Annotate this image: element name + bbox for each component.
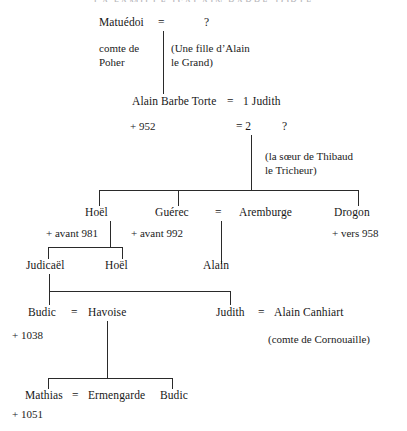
person-budic-1: Budic — [28, 306, 56, 319]
person-matuedoi: Matuédoi — [99, 16, 144, 29]
person-ermengarde: Ermengarde — [88, 389, 145, 402]
note-fille-alain-line2: le Grand) — [171, 56, 213, 69]
note-fille-alain-line1: (Une fille d’Alain — [171, 42, 250, 55]
note-vers-958: + vers 958 — [332, 227, 379, 240]
genealogy-diagram: LA FAMILLE D'ALAIN BARBE TORTE Matuédoi … — [0, 0, 407, 431]
note-death-1038: + 1038 — [12, 329, 43, 342]
union-guerec-equals: = — [215, 206, 222, 218]
sibling-bar-gen3 — [99, 190, 359, 191]
person-spouse2-unknown: ? — [282, 120, 287, 133]
note-death-952: + 952 — [130, 120, 155, 133]
sibling-bar-gen5 — [49, 291, 231, 292]
person-spouse1-unknown: ? — [204, 16, 209, 29]
person-guerec: Guérec — [155, 206, 189, 219]
note-comte-cornouaille: (comte de Cornouaille) — [268, 333, 370, 346]
connector-to-hoel-2 — [122, 247, 123, 259]
note-soeur-thibaud-line1: (la sœur de Thibaud — [265, 150, 353, 163]
connector-judicael-to-children — [49, 274, 50, 292]
note-poher: Poher — [99, 56, 125, 69]
note-soeur-thibaud-line2: le Tricheur) — [265, 164, 317, 177]
person-alain-barbe-torte: Alain Barbe Torte — [132, 95, 216, 108]
diagram-title: LA FAMILLE D'ALAIN BARBE TORTE — [0, 0, 407, 2]
connector-budic-to-children — [107, 321, 108, 379]
sibling-bar-gen4 — [48, 247, 123, 248]
person-hoel-2: Hoël — [105, 259, 128, 272]
person-judicael: Judicaël — [26, 259, 64, 272]
sibling-bar-gen6 — [48, 378, 173, 379]
connector-to-judicael — [48, 247, 49, 259]
connector-gen2-to-gen3 — [251, 135, 252, 191]
union-abt-equals-2: = 2 — [236, 120, 251, 132]
connector-to-budic-2 — [172, 378, 173, 389]
note-avant-981: + avant 981 — [46, 227, 98, 240]
connector-to-judith-2 — [230, 291, 231, 305]
person-havoise: Havoise — [88, 306, 126, 319]
connector-guerec-to-alain — [221, 221, 222, 264]
person-budic-2: Budic — [160, 389, 188, 402]
person-alain-canhiart: Alain Canhiart — [274, 306, 343, 319]
union-mathias-equals: = — [72, 389, 79, 401]
connector-to-guerec — [178, 190, 179, 206]
connector-to-drogon — [358, 190, 359, 206]
person-drogon: Drogon — [334, 206, 370, 219]
connector-gen1-to-gen2 — [163, 31, 164, 94]
connector-to-hoel-1 — [99, 190, 100, 206]
person-alain: Alain — [203, 259, 229, 272]
person-hoel-1: Hoël — [85, 206, 108, 219]
note-death-1051: + 1051 — [12, 408, 43, 421]
person-mathias: Mathias — [25, 389, 63, 402]
person-judith-2: Judith — [216, 306, 245, 319]
note-comte-de: comte de — [99, 42, 139, 55]
union-judith-equals: = — [258, 306, 265, 318]
connector-hoel-to-children — [110, 221, 111, 248]
union-abt-equals: = — [227, 95, 234, 107]
connector-to-budic-1 — [49, 291, 50, 305]
person-aremburge: Aremburge — [239, 206, 292, 219]
union-budic-equals: = — [71, 306, 78, 318]
person-judith-1: 1 Judith — [243, 95, 281, 108]
union-matuedoi-equals: = — [158, 16, 165, 28]
note-avant-992: + avant 992 — [131, 227, 183, 240]
connector-to-mathias — [48, 378, 49, 389]
